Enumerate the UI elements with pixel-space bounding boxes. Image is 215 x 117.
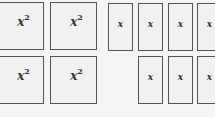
tile-label: x: [178, 19, 183, 29]
tile-label: x2: [70, 67, 83, 83]
tile-label: x: [118, 19, 123, 29]
tile-label: x: [207, 72, 212, 82]
x-squared-tile: x2: [50, 2, 97, 50]
tile-label: x2: [17, 67, 30, 83]
tile-label: x: [148, 19, 153, 29]
x-tile: x: [138, 3, 163, 51]
tile-label: x: [148, 72, 153, 82]
x-tile: x: [197, 3, 215, 51]
x-tile: x: [168, 56, 193, 104]
tile-label: x2: [70, 13, 83, 29]
x-tile: x: [138, 56, 163, 104]
x-tile: x: [108, 3, 133, 51]
x-tile: x: [197, 56, 215, 104]
x-squared-tile: x2: [50, 56, 97, 104]
x-squared-tile: x2: [0, 2, 44, 50]
tile-label: x: [207, 19, 212, 29]
x-squared-tile: x2: [0, 56, 44, 104]
tile-label: x: [178, 72, 183, 82]
tile-label: x2: [17, 13, 30, 29]
x-tile: x: [168, 3, 193, 51]
